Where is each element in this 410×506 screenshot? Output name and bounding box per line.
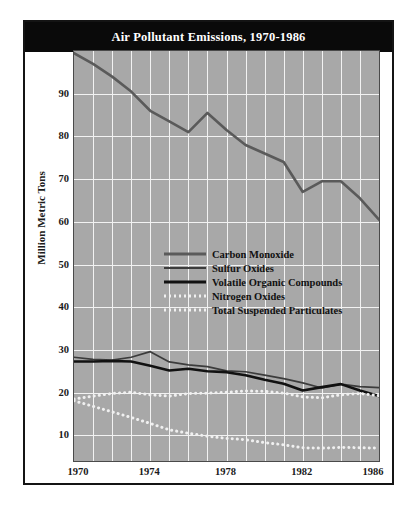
x-axis-tick-label: 1982 [291, 466, 312, 477]
x-axis-tick-label: 1978 [215, 466, 236, 477]
y-axis-tick-label: 30 [29, 344, 69, 355]
y-axis-tick-label: 10 [29, 429, 69, 440]
x-axis-ticks: 19701974197819821986 [73, 466, 380, 482]
legend-swatch-icon [162, 275, 208, 289]
legend-item: Volatile Organic Compounds [162, 275, 372, 289]
series-line [74, 352, 379, 388]
gridline-vertical [379, 51, 380, 461]
legend-swatch-icon [162, 303, 208, 317]
legend-item-label: Carbon Monoxide [208, 249, 294, 260]
legend-swatch-icon [162, 261, 208, 275]
legend-item: Total Suspended Particulates [162, 303, 372, 317]
y-axis-tick-label: 70 [29, 173, 69, 184]
x-axis-tick-label: 1970 [68, 466, 89, 477]
legend-item-label: Total Suspended Particulates [208, 305, 342, 316]
legend-item: Carbon Monoxide [162, 247, 372, 261]
chart-figure: Air Pollutant Emissions, 1970-1986 Milli… [23, 20, 394, 485]
legend-item-label: Nitrogen Oxides [208, 291, 285, 302]
legend-item-label: Volatile Organic Compounds [208, 277, 342, 288]
legend-item: Nitrogen Oxides [162, 289, 372, 303]
x-axis-tick-label: 1986 [363, 466, 384, 477]
y-axis-tick-label: 40 [29, 301, 69, 312]
legend-swatch-icon [162, 247, 208, 261]
legend-item: Sulfur Oxides [162, 261, 372, 275]
x-axis-tick-label: 1974 [139, 466, 160, 477]
y-axis-tick-label: 60 [29, 215, 69, 226]
series-line [74, 391, 379, 399]
series-line [74, 53, 379, 220]
page-title: Air Pollutant Emissions, 1970-1986 [111, 30, 305, 45]
y-axis-tick-label: 80 [29, 130, 69, 141]
y-axis-tick-label: 50 [29, 258, 69, 269]
y-axis-tick-label: 90 [29, 87, 69, 98]
chart-legend: Carbon MonoxideSulfur OxidesVolatile Org… [162, 247, 372, 317]
legend-swatch-icon [162, 289, 208, 303]
y-axis-ticks: 102030405060708090 [25, 50, 69, 462]
plot-area: Carbon MonoxideSulfur OxidesVolatile Org… [73, 50, 380, 462]
legend-item-label: Sulfur Oxides [208, 263, 274, 274]
series-line [74, 401, 379, 448]
y-axis-tick-label: 20 [29, 386, 69, 397]
chart-title-banner: Air Pollutant Emissions, 1970-1986 [25, 22, 392, 52]
